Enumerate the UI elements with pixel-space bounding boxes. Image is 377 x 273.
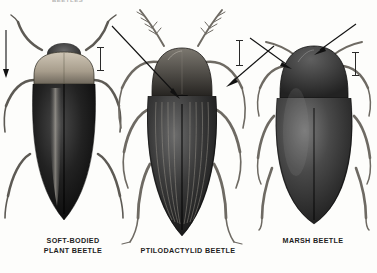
annotation-arrow-antenna	[250, 38, 296, 78]
cropped-header-text: BEETLES	[52, 0, 292, 2]
caption-ptilodactylid-beetle: PTILODACTYLID BEETLE	[118, 246, 258, 256]
antennae	[137, 10, 225, 46]
caption-soft-bodied-plant-beetle: SOFT-BODIED PLANT BEETLE	[18, 236, 128, 255]
scale-bar-soft-bodied-plant-beetle	[97, 47, 104, 71]
figure-ptilodactylid-beetle	[112, 4, 252, 246]
caption-marsh-beetle: MARSH BEETLE	[258, 236, 368, 246]
beetle-illustration-plate: BEETLES	[0, 0, 377, 273]
figure-soft-bodied-plant-beetle	[0, 14, 126, 232]
scale-bar-ptilodactylid-beetle	[236, 40, 243, 66]
annotation-arrow-head	[3, 30, 9, 78]
scale-bar-marsh-beetle	[352, 52, 359, 76]
annotation-arrow-pronotum	[314, 24, 356, 55]
